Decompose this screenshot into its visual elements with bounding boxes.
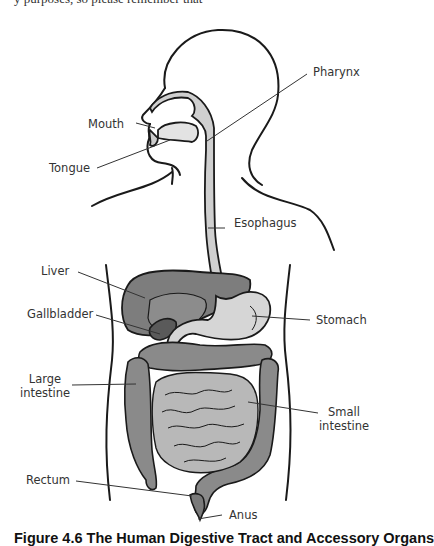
label-large-intestine-line2: intestine (20, 386, 70, 400)
label-rectum: Rectum (26, 473, 70, 487)
label-esophagus: Esophagus (234, 216, 297, 230)
label-small-intestine-line1: Small (318, 405, 370, 419)
rectum (190, 494, 205, 520)
label-pharynx: Pharynx (313, 65, 360, 79)
label-stomach: Stomach (316, 313, 367, 327)
label-gallbladder: Gallbladder (27, 307, 93, 321)
small-intestine (152, 372, 258, 472)
figure-caption: Figure 4.6 The Human Digestive Tract and… (14, 530, 434, 546)
label-tongue: Tongue (49, 161, 90, 175)
label-mouth: Mouth (88, 117, 124, 131)
label-small-intestine: Small intestine (318, 405, 370, 433)
label-liver: Liver (41, 264, 69, 278)
pharynx-esophagus (149, 92, 226, 300)
label-small-intestine-line2: intestine (318, 419, 370, 433)
label-anus: Anus (229, 508, 257, 522)
label-large-intestine-line1: Large (20, 372, 70, 386)
label-large-intestine: Large intestine (20, 372, 70, 400)
